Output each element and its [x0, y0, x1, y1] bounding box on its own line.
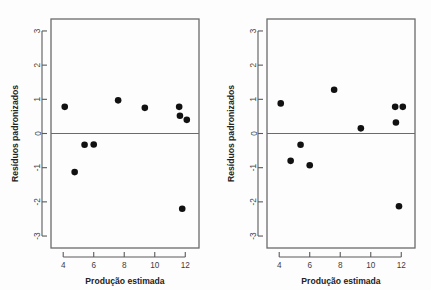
- panel-left: 3210-1-2-34681012Produção estimadaResídu…: [0, 0, 216, 290]
- y-tick-label: -1: [249, 164, 258, 172]
- plot-area-right: 3210-1-2-34681012Produção estimadaResídu…: [216, 0, 431, 290]
- data-point: [391, 104, 398, 111]
- y-tick-label: 0: [249, 131, 258, 136]
- data-point: [330, 86, 337, 93]
- y-tick-label: 2: [249, 62, 258, 67]
- y-tick-label: -3: [249, 232, 258, 240]
- data-point: [395, 203, 402, 210]
- x-tick-label: 12: [181, 261, 191, 270]
- x-tick-label: 10: [366, 261, 376, 270]
- y-tick-label: -3: [34, 232, 43, 240]
- x-tick-label: 4: [61, 261, 66, 270]
- data-point: [71, 169, 78, 176]
- x-tick-label: 12: [396, 261, 406, 270]
- y-axis-title: Resíduos padronizados: [226, 85, 236, 182]
- x-tick-label: 6: [91, 261, 96, 270]
- data-point-group: [277, 86, 406, 209]
- y-tick-label: 1: [34, 97, 43, 102]
- data-point: [287, 158, 294, 165]
- data-point: [61, 104, 68, 111]
- x-tick-label: 8: [337, 261, 342, 270]
- data-point: [392, 119, 399, 126]
- data-point: [357, 125, 364, 132]
- plot-area-left: 3210-1-2-34681012Produção estimadaResídu…: [0, 0, 216, 290]
- y-tick-label: -2: [249, 198, 258, 206]
- data-point: [176, 104, 183, 111]
- data-point: [306, 162, 313, 169]
- x-tick-label: 8: [122, 261, 127, 270]
- data-point: [142, 105, 149, 112]
- y-axis-title: Resíduos padronizados: [10, 85, 20, 182]
- y-tick-label: 1: [249, 97, 258, 102]
- data-point: [277, 100, 284, 107]
- data-point: [179, 205, 186, 212]
- data-point: [90, 141, 97, 148]
- x-tick-label: 10: [150, 261, 160, 270]
- data-point: [297, 141, 304, 148]
- panel-right: 3210-1-2-34681012Produção estimadaResídu…: [216, 0, 431, 290]
- x-axis-title: Produção estimada: [301, 276, 380, 286]
- y-tick-label: -2: [34, 198, 43, 206]
- y-tick-label: -1: [34, 164, 43, 172]
- data-point: [183, 117, 190, 124]
- data-point: [399, 104, 406, 111]
- y-tick-label: 3: [34, 28, 43, 33]
- data-point: [115, 97, 122, 104]
- y-tick-label: 3: [249, 28, 258, 33]
- y-tick-label: 0: [34, 131, 43, 136]
- data-point: [81, 141, 88, 148]
- residual-plots-figure: 3210-1-2-34681012Produção estimadaResídu…: [0, 0, 431, 290]
- data-point: [177, 112, 184, 119]
- x-tick-label: 6: [307, 261, 312, 270]
- x-tick-label: 4: [276, 261, 281, 270]
- data-point-group: [61, 97, 190, 212]
- y-tick-label: 2: [34, 62, 43, 67]
- x-axis-title: Produção estimada: [85, 276, 164, 286]
